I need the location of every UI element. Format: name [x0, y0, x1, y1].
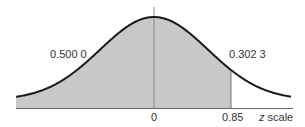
- normal-curve-plot: [0, 0, 305, 127]
- x-axis-title: z scale: [259, 112, 293, 123]
- tick-label-085: 0.85: [222, 112, 243, 123]
- right-area-label: 0.302 3: [229, 49, 266, 60]
- tick-label-zero: 0: [151, 112, 157, 123]
- scale-word: scale: [265, 111, 294, 123]
- shaded-area: [16, 17, 231, 108]
- normal-distribution-figure: 0.500 0 0.302 3 0 0.85 z scale: [0, 0, 305, 127]
- left-area-label: 0.500 0: [50, 49, 87, 60]
